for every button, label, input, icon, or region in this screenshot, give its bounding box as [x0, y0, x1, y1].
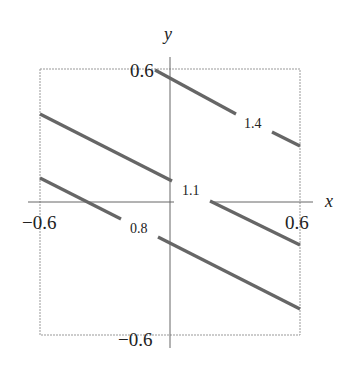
contour-plot: 1.4 1.1 0.8 0.6 −0.6 −0.6 0.6 y x [0, 0, 355, 388]
y-tick-max: 0.6 [130, 60, 154, 81]
x-axis-label: x [324, 191, 333, 211]
x-tick-min: −0.6 [22, 212, 56, 233]
y-axis-label: y [162, 24, 172, 44]
y-tick-min: −0.6 [118, 329, 152, 350]
contour-line-0.8-b [158, 237, 300, 309]
contour-line-1.1-a [40, 114, 172, 181]
contour-label-1.4: 1.4 [244, 116, 262, 131]
contour-label-0.8: 0.8 [130, 221, 148, 236]
contour-line-1.4-b [272, 132, 300, 146]
x-tick-max: 0.6 [285, 212, 309, 233]
contour-label-1.1: 1.1 [182, 183, 200, 198]
contour-line-1.4-a [155, 70, 236, 114]
